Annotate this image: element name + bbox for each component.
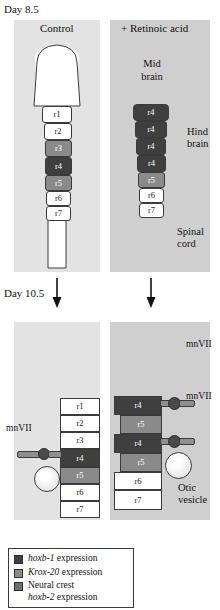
segment-bottom-right-r4-a: r4 xyxy=(114,396,162,415)
legend-text-neural-crest: Neural crest xyxy=(28,580,74,590)
legend-suffix-hoxb1: expression xyxy=(54,553,97,563)
region-label-otic-line2: vesicle xyxy=(178,494,220,505)
segment-bottom-right-r6: r6 xyxy=(114,472,162,490)
stage-label-day-10-5: Day 10.5 xyxy=(4,288,44,300)
legend-item-neural-crest: Neural cresthoxb-2 expression xyxy=(14,580,128,602)
segment-top-left-r1: r1 xyxy=(42,106,72,123)
segment-bottom-left-r7: r7 xyxy=(60,501,100,518)
motor-nerve-root-bottom-left xyxy=(48,451,62,458)
region-label-spinal-cord-line2: cord xyxy=(177,238,219,249)
legend-item-hoxb1: hoxb-1 expression xyxy=(14,553,128,564)
region-label-hindbrain-line2: brain xyxy=(187,138,219,149)
legend-label-krox20: Krox-20 expression xyxy=(28,567,102,578)
segment-bottom-left-r5: r5 xyxy=(60,467,100,484)
segment-bottom-right-r5-a: r5 xyxy=(120,415,162,434)
legend-gene-krox20: Krox-20 xyxy=(28,567,59,577)
segment-bottom-right-r7: r7 xyxy=(114,490,162,510)
legend-gene-hoxb1: hoxb-1 xyxy=(28,553,54,563)
region-label-spinal-cord-line1: Spinal xyxy=(177,226,219,237)
segment-top-left-r4: r4 xyxy=(45,157,72,175)
segment-bottom-left-r6: r6 xyxy=(60,484,100,501)
segment-bottom-left-r1: r1 xyxy=(60,398,100,415)
segment-bottom-left-r2: r2 xyxy=(60,415,100,432)
motor-nerve-label-bottom-right-2: mnVII xyxy=(186,392,212,402)
segment-top-right-r6: r6 xyxy=(139,188,164,203)
figure-root: Day 8.5 Control r xyxy=(0,0,220,610)
legend-suffix-krox20: expression xyxy=(59,567,102,577)
panel-title-retinoic-acid: + Retinoic acid xyxy=(121,23,188,35)
segment-top-right-r4-a: r4 xyxy=(133,104,169,121)
segment-top-right-r4-d: r4 xyxy=(137,155,166,172)
segment-top-left-r6: r6 xyxy=(46,191,71,206)
segment-bottom-right-r4-b: r4 xyxy=(114,434,162,453)
segment-top-left-r2: r2 xyxy=(44,123,72,140)
segment-top-right-r4-c: r4 xyxy=(136,138,166,155)
legend-suffix-hoxb2: expression xyxy=(54,592,97,602)
midbrain-vesicle-top-left xyxy=(31,45,83,107)
region-label-hindbrain-line1: Hind xyxy=(187,126,219,137)
segment-top-left-r5: r5 xyxy=(45,175,72,191)
segment-bottom-right-r5-b: r5 xyxy=(120,453,162,472)
otic-vesicle-bottom-right xyxy=(165,452,192,479)
motor-nerve-bar-bottom-right-2 xyxy=(179,438,195,445)
segment-top-left-r3: r3 xyxy=(45,140,72,157)
segment-top-right-r4-b: r4 xyxy=(135,121,167,138)
motor-nerve-label-bottom-left: mnVII xyxy=(6,424,32,434)
legend: hoxb-1 expression Krox-20 expression Neu… xyxy=(8,548,134,608)
legend-item-krox20: Krox-20 expression xyxy=(14,567,128,578)
arrow-left-head xyxy=(53,297,62,308)
region-label-midbrain-line1: Mid xyxy=(134,58,170,69)
segment-top-left-r7: r7 xyxy=(46,206,71,221)
legend-swatch-hoxb1-icon xyxy=(14,555,23,564)
region-label-midbrain-line2: brain xyxy=(134,71,170,82)
legend-label-hoxb1: hoxb-1 expression xyxy=(28,553,97,564)
legend-label-neural-crest: Neural cresthoxb-2 expression xyxy=(28,580,97,602)
segment-top-right-r7: r7 xyxy=(139,203,164,218)
arrow-right-head xyxy=(147,297,156,308)
segment-top-right-r5: r5 xyxy=(138,172,165,188)
legend-gene-hoxb2: hoxb-2 xyxy=(28,592,54,602)
legend-swatch-neural-crest-icon xyxy=(14,582,23,591)
legend-swatch-krox20-icon xyxy=(14,569,23,578)
motor-nerve-label-bottom-right-1: mnVII xyxy=(186,340,212,350)
otic-vesicle-bottom-left xyxy=(34,466,60,492)
segment-bottom-left-r3: r3 xyxy=(60,432,100,449)
region-label-otic-line1: Otic xyxy=(178,482,220,493)
panel-title-control: Control xyxy=(40,23,74,35)
segment-bottom-left-r4: r4 xyxy=(60,449,100,467)
stage-label-day-8-5: Day 8.5 xyxy=(4,4,39,16)
